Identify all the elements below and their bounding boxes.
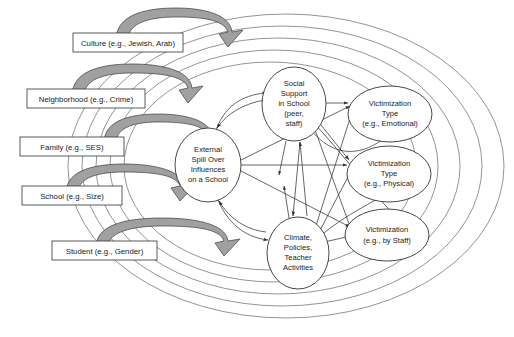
arrow-social-to-staff xyxy=(310,116,352,232)
node-victimization-physical-line-1: Victimization xyxy=(368,159,411,168)
node-spillover-line-1: External xyxy=(194,145,222,154)
node-climate-line-2: Policies, xyxy=(284,243,312,252)
context-box-school[interactable]: School (e.g., Size) xyxy=(22,186,122,205)
outcome-nodes: Victimization Type (e.g., Emotional) Vic… xyxy=(345,86,432,261)
context-box-culture[interactable]: Culture (e.g., Jewish, Arab) xyxy=(73,33,183,52)
node-victimization-physical[interactable]: Victimization Type (e.g., Physical) xyxy=(347,146,431,202)
node-climate-line-1: Climate, xyxy=(284,233,312,242)
context-box-culture-label: Culture (e.g., Jewish, Arab) xyxy=(81,39,175,48)
context-box-neighborhood[interactable]: Neighborhood (e.g., Crime) xyxy=(27,89,145,108)
arrow-social-to-climate xyxy=(293,142,300,216)
node-spillover-line-2: Spill Over xyxy=(192,155,225,164)
node-spillover-line-3: Influences xyxy=(191,165,226,174)
arrow-climate-to-spillover xyxy=(219,201,266,232)
context-box-school-label: School (e.g., Size) xyxy=(40,192,104,201)
arrow-social-to-climate-b xyxy=(279,141,286,175)
node-victimization-emotional-line-2: Type xyxy=(382,109,398,118)
node-climate-line-3: Teacher xyxy=(284,253,311,262)
node-social-support[interactable]: Social Support in School (peer, staff) xyxy=(262,67,326,141)
node-victimization-emotional-line-1: Victimization xyxy=(369,99,412,108)
node-victimization-physical-line-2: Type xyxy=(381,169,397,178)
node-spillover-line-4: on a School xyxy=(188,175,228,184)
node-social-support-line-4: (peer, xyxy=(284,109,303,118)
context-box-family[interactable]: Family (e.g., SES) xyxy=(20,137,124,156)
node-social-support-line-3: in School xyxy=(278,99,310,108)
arrow-climate-to-social xyxy=(300,142,307,216)
ecological-model-diagram: Culture (e.g., Jewish, Arab) Neighborhoo… xyxy=(0,0,514,337)
node-victimization-emotional-line-3: (e.g., Emotional) xyxy=(362,119,418,128)
arrow-climate-to-physical xyxy=(316,173,350,238)
node-climate[interactable]: Climate, Policies, Teacher Activities xyxy=(267,217,329,289)
node-spillover[interactable]: External Spill Over Influences on a Scho… xyxy=(175,128,241,202)
context-box-neighborhood-label: Neighborhood (e.g., Crime) xyxy=(39,95,134,104)
node-victimization-staff[interactable]: Victimization (e.g., by Staff) xyxy=(345,209,429,261)
node-social-support-line-2: Support xyxy=(281,89,308,98)
node-victimization-staff-line-1: Victimization xyxy=(366,225,409,234)
node-victimization-emotional[interactable]: Victimization Type (e.g., Emotional) xyxy=(348,86,432,142)
node-social-support-line-1: Social xyxy=(284,79,305,88)
arrow-climate-to-social-b xyxy=(284,186,289,218)
context-box-family-label: Family (e.g., SES) xyxy=(40,143,104,152)
diagram-canvas: Culture (e.g., Jewish, Arab) Neighborhoo… xyxy=(0,0,514,337)
node-climate-line-4: Activities xyxy=(283,263,313,272)
context-box-student-label: Student (e.g., Gender) xyxy=(66,247,144,256)
node-victimization-physical-line-3: (e.g., Physical) xyxy=(364,179,415,188)
node-victimization-staff-line-2: (e.g., by Staff) xyxy=(363,236,411,245)
context-box-student[interactable]: Student (e.g., Gender) xyxy=(52,241,157,260)
arrow-climate-to-emotional xyxy=(314,112,352,232)
core-nodes: External Spill Over Influences on a Scho… xyxy=(175,67,329,289)
node-social-support-line-5: staff) xyxy=(286,119,303,128)
arrow-spillover-to-social xyxy=(216,93,267,130)
